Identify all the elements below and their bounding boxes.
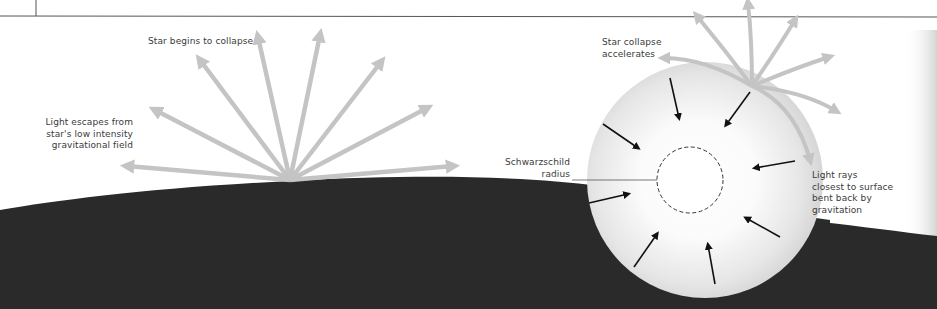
- label-light-escapes: Light escapes from star's low intensity …: [20, 117, 133, 152]
- light-rays-line-4: gravitation: [812, 205, 893, 217]
- schwarzschild-line-1: Schwarzschild: [500, 157, 570, 169]
- light-escapes-line-2: star's low intensity: [20, 129, 133, 141]
- collapse-accelerates-line-2: accelerates: [602, 49, 662, 61]
- light-rays-line-1: Light rays: [812, 170, 893, 182]
- light-escapes-line-1: Light escapes from: [20, 117, 133, 129]
- light-rays-line-3: bent back by: [812, 193, 893, 205]
- black-hole-diagram: Star begins to collapse Light escapes fr…: [0, 0, 937, 309]
- label-star-begins: Star begins to collapse: [148, 36, 253, 48]
- top-rule-line: [0, 16, 937, 17]
- escaping-light-rays: [127, 35, 453, 180]
- star-begins-text: Star begins to collapse: [148, 36, 253, 46]
- light-escapes-line-3: gravitational field: [20, 140, 133, 152]
- label-schwarzschild-radius: Schwarzschild radius: [500, 157, 570, 180]
- light-rays-line-2: closest to surface: [812, 182, 893, 194]
- collapse-accelerates-line-1: Star collapse: [602, 37, 662, 49]
- label-collapse-accelerates: Star collapse accelerates: [602, 37, 662, 60]
- schwarzschild-radius-circle: [657, 147, 723, 213]
- diagram-canvas: [0, 0, 937, 309]
- label-light-rays-bent: Light rays closest to surface bent back …: [812, 170, 893, 216]
- schwarzschild-line-2: radius: [500, 169, 570, 181]
